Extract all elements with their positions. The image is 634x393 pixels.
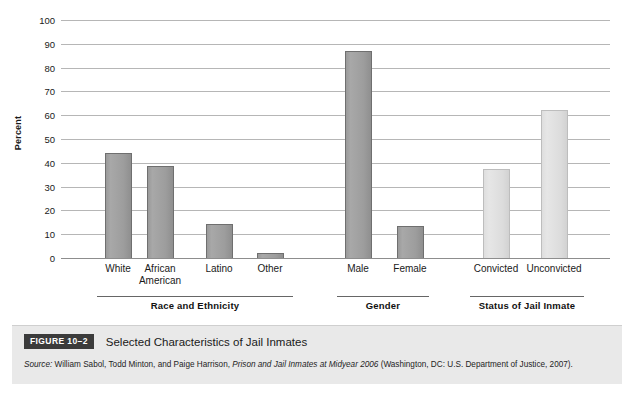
bar-latino <box>206 224 233 259</box>
bar-other <box>257 253 284 258</box>
y-tick-30: 30 <box>15 181 55 192</box>
figure-title: Selected Characteristics of Jail Inmates <box>106 336 307 348</box>
y-tick-90: 90 <box>15 38 55 49</box>
group-label-gender: Gender <box>337 300 429 311</box>
bar-convicted <box>483 169 510 258</box>
y-tick-100: 100 <box>15 15 55 26</box>
y-tick-60: 60 <box>15 110 55 121</box>
figure-page: Percent 100 90 80 70 60 50 40 30 20 10 <box>0 0 634 393</box>
plot-area: 100 90 80 70 60 50 40 30 20 10 0 <box>61 20 610 258</box>
y-tick-10: 10 <box>15 229 55 240</box>
group-rule-race <box>97 296 293 297</box>
gridline-10 <box>61 234 610 235</box>
gridline-20 <box>61 210 610 211</box>
gridline-60 <box>61 115 610 116</box>
y-tick-50: 50 <box>15 134 55 145</box>
figure-caption-block: FIGURE 10–2 Selected Characteristics of … <box>12 325 622 384</box>
source-label: Source: <box>24 360 52 369</box>
group-label-race: Race and Ethnicity <box>97 300 293 311</box>
x-label-female: Female <box>372 263 448 275</box>
bar-chart: Percent 100 90 80 70 60 50 40 30 20 10 <box>0 0 634 318</box>
bar-female <box>397 226 424 258</box>
bar-male <box>345 51 372 258</box>
x-label-unconvicted: Unconvicted <box>512 263 596 275</box>
gridline-0 <box>61 258 610 259</box>
gridline-30 <box>61 187 610 188</box>
bar-african-american <box>147 166 174 258</box>
source-work-title: Prison and Jail Inmates at Midyear 2006 <box>232 360 378 369</box>
group-rule-status <box>470 296 584 297</box>
y-tick-40: 40 <box>15 157 55 168</box>
bar-white <box>105 153 132 258</box>
figure-title-row: FIGURE 10–2 Selected Characteristics of … <box>24 334 307 349</box>
figure-source-note: Source: William Sabol, Todd Minton, and … <box>24 359 612 370</box>
gridline-40 <box>61 163 610 164</box>
bar-unconvicted <box>541 110 568 258</box>
gridline-50 <box>61 139 610 140</box>
y-tick-70: 70 <box>15 86 55 97</box>
group-label-status: Status of Jail Inmate <box>458 300 596 311</box>
group-rule-gender <box>337 296 429 297</box>
y-tick-0: 0 <box>15 253 55 264</box>
source-authors: William Sabol, Todd Minton, and Paige Ha… <box>52 360 232 369</box>
figure-number-badge: FIGURE 10–2 <box>24 334 94 349</box>
y-tick-80: 80 <box>15 62 55 73</box>
gridline-100 <box>61 20 610 21</box>
y-tick-20: 20 <box>15 205 55 216</box>
x-label-other: Other <box>232 263 308 275</box>
gridline-80 <box>61 68 610 69</box>
source-publisher: (Washington, DC: U.S. Department of Just… <box>378 360 572 369</box>
gridline-90 <box>61 44 610 45</box>
gridline-70 <box>61 91 610 92</box>
